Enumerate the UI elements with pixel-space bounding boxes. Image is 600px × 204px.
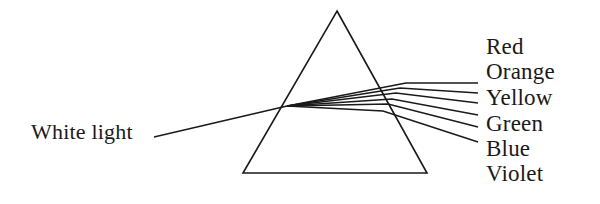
prism-triangle-outline — [243, 11, 427, 173]
spectrum-label-red: Red — [486, 35, 524, 58]
spectrum-label-orange: Orange — [486, 60, 555, 83]
dispersed-ray-violet — [287, 106, 478, 142]
white-light-label: White light — [31, 121, 133, 143]
spectrum-label-violet: Violet — [486, 162, 543, 185]
spectrum-label-yellow: Yellow — [486, 86, 553, 109]
prism-dispersion-figure: White light Red Orange Yellow Green Blue… — [0, 0, 600, 204]
spectrum-label-blue: Blue — [486, 137, 530, 160]
spectrum-label-green: Green — [486, 112, 543, 135]
